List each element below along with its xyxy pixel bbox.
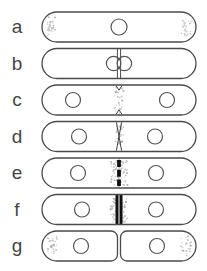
nucleus [160,93,175,108]
stage-label-e: e [7,163,27,182]
nucleus [66,93,81,108]
nucleus [75,202,90,217]
polar-granules [181,19,193,36]
stage-label-f: f [7,200,27,219]
dividing-nucleus-lobe [117,56,131,70]
nucleus [149,166,164,181]
stage-label-a: a [7,17,27,36]
nucleus [111,19,127,35]
cell-membrane [42,49,196,79]
cell-division-stages-figure: a b c d e f g [0,0,207,271]
polar-granules [180,235,192,256]
nucleus [148,129,163,144]
nucleus [72,129,87,144]
nucleus [149,202,164,217]
polar-granules [47,236,58,254]
diagram-canvas [0,0,207,271]
nucleus [74,239,89,254]
stage-label-g: g [7,236,27,255]
membrane-mark-bottom [116,110,122,115]
nucleus [150,239,165,254]
polar-granules [47,17,56,37]
stage-label-c: c [7,90,27,109]
stage-label-b: b [7,54,27,73]
stage-label-d: d [7,127,27,146]
nucleus [71,166,86,181]
